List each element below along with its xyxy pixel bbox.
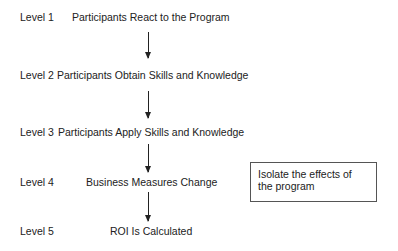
level-5-text: ROI Is Calculated: [110, 225, 192, 237]
level-2-label: Level 2: [20, 69, 54, 81]
level-4-text: Business Measures Change: [86, 176, 217, 188]
isolate-effects-box: Isolate the effects of the program: [250, 162, 377, 202]
down-arrow-icon: [148, 192, 149, 221]
level-1-text: Participants React to the Program: [72, 11, 230, 23]
level-5-label: Level 5: [20, 225, 54, 237]
level-4-label: Level 4: [20, 176, 54, 188]
down-arrow-icon: [148, 32, 149, 58]
down-arrow-icon: [148, 91, 149, 118]
level-2-text: Participants Obtain Skills and Knowledge: [57, 69, 248, 81]
isolate-effects-text: Isolate the effects of the program: [258, 168, 352, 192]
down-arrow-icon: [148, 144, 149, 172]
level-1-label: Level 1: [20, 11, 54, 23]
level-3-text: Participants Apply Skills and Knowledge: [58, 126, 244, 138]
level-3-label: Level 3: [20, 126, 54, 138]
